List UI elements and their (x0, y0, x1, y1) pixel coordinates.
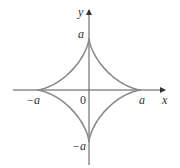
origin-label: 0 (80, 93, 86, 107)
neg-x-label: −a (26, 93, 40, 107)
pos-x-label: a (139, 93, 145, 107)
astroid-diagram: y x 0 a −a a −a (0, 0, 180, 168)
y-axis-label: y (77, 5, 84, 19)
neg-y-label: −a (72, 139, 86, 153)
pos-y-label: a (78, 27, 84, 41)
x-axis-label: x (161, 93, 168, 107)
